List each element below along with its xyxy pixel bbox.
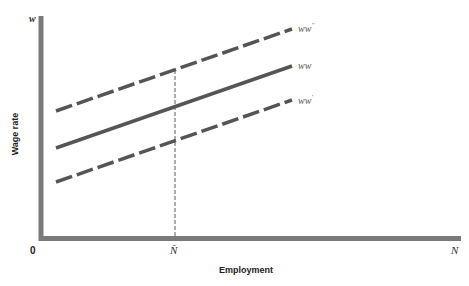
- y-axis-title: Wage rate: [10, 113, 20, 156]
- y-axis-symbol: w: [29, 13, 36, 24]
- chart: ww′′ ww ww′ w 0 N̄ N Employment Wage rat…: [0, 0, 469, 286]
- x-axis-symbol: N: [450, 244, 459, 256]
- label-ww-double-prime: ww′′: [298, 21, 315, 34]
- x-axis-title: Employment: [219, 265, 273, 275]
- n-bar-label: N̄: [169, 244, 178, 256]
- origin-label: 0: [30, 245, 36, 256]
- label-ww-prime: ww′: [298, 93, 313, 106]
- series-ww-double-prime: [56, 29, 292, 111]
- series-ww-prime: [56, 100, 292, 182]
- label-ww: ww: [298, 60, 312, 71]
- series-ww: [56, 66, 292, 148]
